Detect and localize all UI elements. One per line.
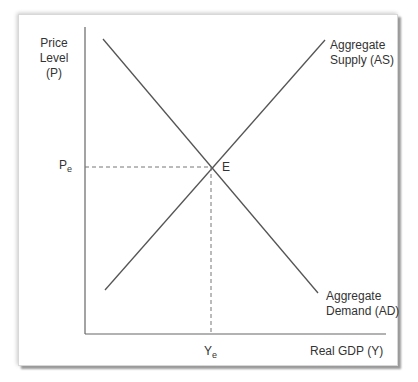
demand-label-line1: Aggregate (326, 289, 399, 304)
equilibrium-point-label: E (222, 160, 230, 175)
aggregate-supply-curve (105, 40, 325, 290)
y-axis-label-line1: Price Level (29, 36, 79, 66)
output-equilibrium-label: Ye (204, 344, 217, 360)
supply-label-line1: Aggregate (330, 38, 394, 53)
price-equilibrium-label: Pe (59, 158, 72, 174)
supply-label-line2: Supply (AS) (330, 53, 394, 68)
demand-label-line2: Demand (AD) (326, 304, 399, 319)
price-eq-sub: e (67, 164, 72, 174)
price-eq-main: P (59, 158, 67, 172)
y-axis-label: Price Level (P) (29, 36, 79, 81)
output-eq-main: Y (204, 344, 212, 358)
output-eq-sub: e (212, 350, 217, 360)
demand-label: Aggregate Demand (AD) (326, 289, 399, 319)
y-axis-label-line2: (P) (29, 66, 79, 81)
x-axis-label: Real GDP (Y) (310, 344, 383, 359)
supply-label: Aggregate Supply (AS) (330, 38, 394, 68)
